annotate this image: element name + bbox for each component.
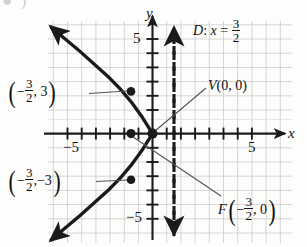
lower-point-label: ( − 3 2 ,−3 ) [7,167,62,195]
upper-close-paren: ) [49,79,56,105]
lower-denominator: 2 [25,180,34,193]
focus-sign: − [237,203,245,217]
y-tick-label-neg5: −5 [126,210,142,225]
x-tick-label-neg5: −5 [63,140,79,155]
directrix-equals: = [220,23,228,38]
directrix-numerator: 3 [232,17,241,30]
vertex-label: V(0, 0) [208,79,247,93]
directrix-fraction: 3 2 [232,17,241,45]
scan-artifact-top: ● ) [2,0,26,11]
lower-open-paren: ( [8,168,15,194]
x-axis [44,128,285,140]
lower-close-paren: ) [53,168,60,194]
upper-point-label: ( − 3 2 , 3 ) [7,78,57,106]
directrix-label: D: x = 3 2 [193,18,240,46]
focus-comma: , [253,203,257,217]
directrix-name: D [193,23,203,38]
directrix-denominator: 2 [232,31,241,44]
lower-fraction: 3 2 [25,166,34,194]
focus-label: F ( − 3 2 , 0 ) [218,196,277,224]
vertex-x: 0, [221,78,232,93]
focus-close-paren: ) [268,197,275,223]
upper-y: 3 [40,85,47,99]
point-vertex [148,129,158,139]
focus-numerator: 3 [244,195,253,208]
upper-comma: , [33,85,37,99]
point-focus [126,129,135,138]
focus-denominator: 2 [244,209,253,222]
upper-sign: − [17,85,25,99]
leader-focus [133,137,221,196]
y-tick-label-5: 5 [133,31,141,46]
x-tick-label-5: 5 [248,140,256,155]
vertex-close-paren: ) [242,78,247,93]
directrix-variable: x [211,23,217,38]
focus-name: F [218,203,227,217]
lower-y: −3 [37,174,52,188]
leader-lower-point [96,180,128,182]
upper-numerator: 3 [25,77,34,90]
vertex-name: V [208,78,217,93]
upper-open-paren: ( [8,79,15,105]
point-lower-latus [127,176,136,185]
upper-denominator: 2 [25,91,34,104]
directrix-separator: : [203,23,207,38]
x-axis-label: x [288,126,295,141]
focus-fraction: 3 2 [244,195,253,223]
upper-fraction: 3 2 [25,77,34,105]
leader-lines [89,88,221,196]
y-axis-label: y [146,6,153,21]
lower-numerator: 3 [25,166,34,179]
point-upper-latus [127,87,136,96]
focus-open-paren: ( [228,197,235,223]
focus-y: 0 [260,203,267,217]
lower-sign: − [17,174,25,188]
parabola-figure: ● ) y x 5 −5 −5 5 D: x = 3 2 V(0, 0) F (… [0,0,307,247]
